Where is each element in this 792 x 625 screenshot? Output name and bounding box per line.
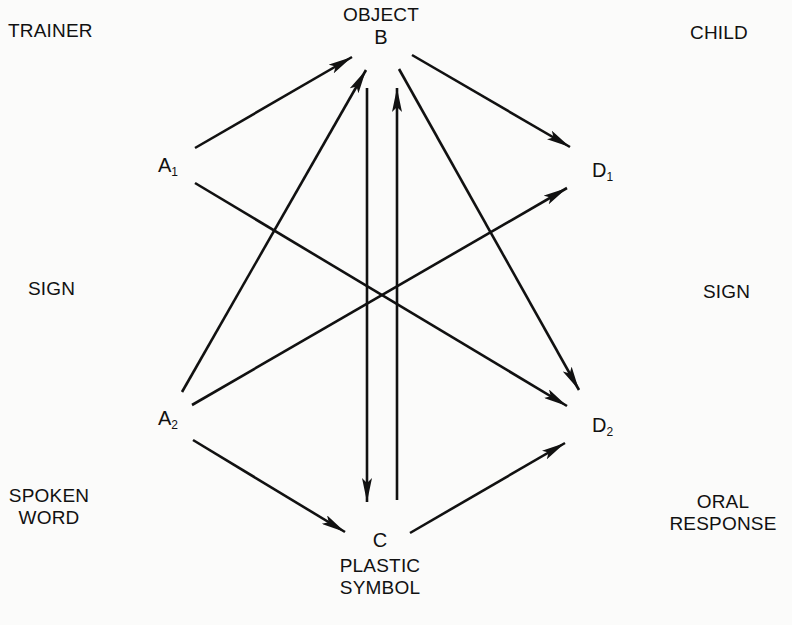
child-label: CHILD [690, 22, 748, 44]
node-d2: D2 [592, 414, 613, 443]
object-label: OBJECT [330, 4, 432, 26]
sign-left-label: SIGN [28, 278, 75, 300]
plastic-symbol-node: C PLASTIC SYMBOL [330, 555, 430, 599]
node-c: C [330, 529, 430, 551]
trainer-label: TRAINER [8, 20, 93, 42]
spoken-word-label: SPOKEN WORD [5, 485, 93, 529]
object-node: OBJECT B [330, 4, 432, 48]
arrow-a2-to-c [193, 440, 345, 532]
node-a2: A2 [158, 407, 178, 436]
arrow-b-to-d2 [399, 69, 579, 390]
node-b: B [330, 26, 432, 48]
node-a1: A1 [158, 154, 178, 183]
node-d1: D1 [592, 159, 613, 188]
sign-right-label: SIGN [703, 281, 750, 303]
arrow-c-to-d2 [410, 443, 565, 533]
oral-response-label: ORAL RESPONSE [663, 491, 783, 535]
